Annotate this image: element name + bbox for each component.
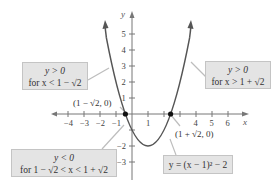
x-tick-label: −3 [80,118,89,128]
x-tick-label: 6 [226,118,230,128]
y-axis-arrow-icon [130,11,135,18]
x-tick-label: 1 [146,118,150,128]
x-intercept-left-point [123,111,128,116]
annotation-middle-line1: y < 0 [12,152,116,164]
y-tick-label: −2 [117,141,126,151]
annotation-middle-line2: for 1 − √2 < x < 1 + √2 [12,164,116,176]
annotation-left-line1: y > 0 [23,65,87,77]
leader-line-point-right [171,115,180,126]
leader-line-right [191,62,206,77]
point-label-left: (1 − √2, 0) [73,98,112,108]
x-axis-label: x [242,117,247,127]
x-axis-left-arrow-icon [51,112,57,117]
y-axis-label: y [120,9,125,19]
x-tick-label: −4 [64,118,74,128]
x-tick-label: −2 [96,118,105,128]
y-tick-label: 3 [122,61,126,71]
y-tick-label: −3 [117,157,126,167]
y-tick-label: 4 [122,45,127,55]
x-tick-label: −1 [112,118,121,128]
leader-line-equation [170,139,176,155]
point-label-right: (1 + √2, 0) [175,129,214,139]
leader-line-left [88,68,109,80]
x-axis-arrow-icon [242,112,249,117]
annotation-box-left: y > 0 for x < 1 − √2 [22,62,88,90]
annotation-left-line2: for x < 1 − √2 [23,77,87,89]
annotation-right-line2: for x > 1 + √2 [206,76,270,88]
x-tick-label: 5 [210,118,214,128]
y-tick-label: 1 [122,93,126,103]
annotation-box-middle: y < 0 for 1 − √2 < x < 1 + √2 [11,149,117,177]
leader-lines [88,62,206,155]
x-tick-label: 4 [194,118,199,128]
x-axis: −4 −3 −2 −1 1 4 5 6 x [51,111,249,128]
annotation-box-equation: y = (x − 1)² − 2 [163,155,233,174]
y-tick-label: 5 [122,29,126,39]
x-intercept-right-point [168,111,173,116]
annotation-right-line1: y > 0 [206,64,270,76]
annotation-box-right: y > 0 for x > 1 + √2 [205,61,271,89]
y-tick-label: 2 [122,77,126,87]
equation-label: y = (x − 1)² − 2 [164,159,232,171]
